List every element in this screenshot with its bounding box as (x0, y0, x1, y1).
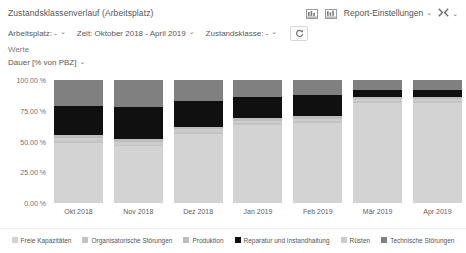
expand-collapse-icon (438, 8, 449, 17)
bar-segment[interactable] (174, 80, 223, 101)
bar-segment[interactable] (233, 80, 282, 97)
legend-label: Organisatorische Störungen (91, 237, 172, 244)
bar-column[interactable] (233, 80, 282, 203)
legend-label: Produktion (192, 237, 223, 244)
legend-swatch (381, 237, 387, 243)
bar-segment[interactable] (293, 95, 342, 117)
legend-swatch (12, 237, 18, 243)
x-axis-tick: Nov 2018 (114, 208, 163, 215)
bar-segment[interactable] (114, 146, 163, 203)
refresh-icon (295, 29, 304, 38)
legend-label: Freie Kapazitäten (21, 237, 72, 244)
legend-item[interactable]: Produktion (183, 237, 223, 244)
bar-segment[interactable] (174, 134, 223, 203)
chart-legend: Freie KapazitätenOrganisatorische Störun… (0, 232, 466, 248)
chevron-down-icon: ⌄ (426, 9, 432, 17)
legend-item[interactable]: Rüsten (341, 237, 371, 244)
y-axis-tick: 50.00 % (20, 138, 46, 145)
bar-segment[interactable] (54, 80, 103, 106)
chevron-down-icon: ⌄ (60, 28, 66, 36)
y-axis: 0.00 %25.00 %50.00 %75.00 %100.00 % (0, 74, 52, 209)
bar-segment[interactable] (353, 80, 402, 90)
bar-segment[interactable] (293, 123, 342, 203)
legend-item[interactable]: Reparatur und Instandhaltung (235, 237, 330, 244)
filter-zustandsklasse[interactable]: Zustandsklasse: -⌄ (206, 29, 278, 38)
bar-segment[interactable] (174, 101, 223, 127)
x-axis-tick: Mär 2019 (353, 208, 402, 215)
chevron-down-icon: ⌄ (79, 58, 85, 66)
filter-arbeitsplatz-label: Arbeitsplatz: - (8, 29, 57, 38)
bar-segment[interactable] (413, 90, 462, 97)
legend-item[interactable]: Technische Störungen (381, 237, 454, 244)
filter-bar: Arbeitsplatz: -⌄ Zeit: Oktober 2018 - Ap… (8, 26, 308, 40)
legend-swatch (183, 237, 189, 243)
x-axis-tick: Dez 2018 (174, 208, 223, 215)
bar-segment[interactable] (54, 143, 103, 203)
y-axis-tick: 25.00 % (20, 169, 46, 176)
bar-column[interactable] (293, 80, 342, 203)
bar-segment[interactable] (233, 97, 282, 118)
report-settings-menu[interactable]: Report-Einstellungen⌄ (344, 8, 432, 18)
values-select-label: Dauer [% von PBZ] (8, 58, 76, 67)
legend-divider (0, 228, 466, 229)
bar-segment[interactable] (353, 103, 402, 203)
report-settings-label: Report-Einstellungen (344, 8, 423, 18)
bar-column[interactable] (174, 80, 223, 203)
bar-column[interactable] (54, 80, 103, 203)
chevron-down-icon-2: ⌄ (452, 10, 458, 18)
values-group-label: Werte (8, 45, 29, 54)
page-title: Zustandsklassenverlauf (Arbeitsplatz) (8, 8, 153, 18)
bar-chart-table-icon[interactable] (325, 7, 338, 19)
legend-label: Technische Störungen (390, 237, 454, 244)
chevron-down-icon: ⌄ (271, 28, 277, 36)
report-view: Zustandsklassenverlauf (Arbeitsplatz) (0, 0, 466, 253)
y-axis-tick: 75.00 % (20, 107, 46, 114)
chevron-down-icon: ⌄ (189, 28, 195, 36)
bar-column[interactable] (114, 80, 163, 203)
bar-chart-icon[interactable] (306, 7, 319, 19)
legend-label: Reparatur und Instandhaltung (244, 237, 330, 244)
bar-segment[interactable] (413, 80, 462, 90)
filter-arbeitsplatz[interactable]: Arbeitsplatz: -⌄ (8, 29, 66, 38)
expand-menu[interactable]: ⌄ (438, 8, 458, 19)
bar-segment[interactable] (114, 107, 163, 139)
x-axis-tick: Jan 2019 (233, 208, 282, 215)
refresh-button[interactable] (290, 26, 308, 41)
x-axis-tick: Feb 2019 (293, 208, 342, 215)
bar-segment[interactable] (413, 103, 462, 203)
legend-item[interactable]: Organisatorische Störungen (82, 237, 172, 244)
x-axis-tick: Okt 2018 (54, 208, 103, 215)
x-axis: Okt 2018Nov 2018Dez 2018Jan 2019Feb 2019… (54, 208, 462, 215)
filter-zeit[interactable]: Zeit: Oktober 2018 - April 2019⌄ (77, 29, 195, 38)
bar-column[interactable] (413, 80, 462, 203)
filter-zeit-label: Zeit: Oktober 2018 - April 2019 (77, 29, 186, 38)
bar-column[interactable] (353, 80, 402, 203)
bar-segment[interactable] (353, 90, 402, 97)
legend-swatch (341, 237, 347, 243)
legend-swatch (82, 237, 88, 243)
x-axis-tick: Apr 2019 (413, 208, 462, 215)
header-actions: Report-Einstellungen⌄ ⌄ (306, 7, 458, 19)
filter-zustandsklasse-label: Zustandsklasse: - (206, 29, 269, 38)
legend-swatch (235, 237, 241, 243)
plot-area (54, 80, 462, 203)
legend-item[interactable]: Freie Kapazitäten (12, 237, 72, 244)
y-axis-tick: 0.00 % (24, 200, 46, 207)
bar-segment[interactable] (114, 80, 163, 107)
bar-segment[interactable] (233, 125, 282, 203)
bar-segment[interactable] (293, 80, 342, 95)
y-axis-tick: 100.00 % (16, 77, 46, 84)
bar-segment[interactable] (54, 106, 103, 136)
bar-group (54, 80, 462, 203)
legend-label: Rüsten (350, 237, 371, 244)
stacked-bar-chart: 0.00 %25.00 %50.00 %75.00 %100.00 % Okt … (0, 74, 466, 226)
report-header: Zustandsklassenverlauf (Arbeitsplatz) (8, 6, 458, 20)
values-select[interactable]: Dauer [% von PBZ]⌄ (8, 58, 85, 67)
